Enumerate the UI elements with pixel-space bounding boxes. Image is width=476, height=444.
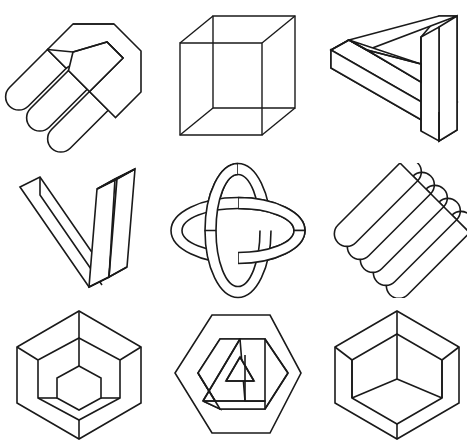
- figure-cell-impossible-v: Impossible V: [0, 155, 158, 305]
- figure-cell-impossible-trident: Impossible Trident (Blivet): [0, 0, 158, 155]
- figure-cell-nested-hexagon-cube: Nested Hexagonal Cube: [0, 305, 158, 444]
- impossible-trident-illustration: [4, 3, 154, 153]
- cube-edge-top-left: [180, 16, 213, 43]
- impossible-v-illustration: [14, 165, 144, 295]
- cube-front-face: [180, 43, 262, 135]
- impossible-rings-body: [171, 163, 305, 297]
- impossible-v-arms: [20, 169, 135, 287]
- necker-cube-edges: [180, 16, 295, 135]
- penrose-hexagon-illustration: [170, 309, 306, 441]
- figure-cell-necker-cube: Necker Cube: [158, 0, 318, 155]
- tribar-beam-right-front-face: [439, 16, 457, 141]
- penrose-triangle-illustration: [327, 8, 467, 148]
- reversible-cube-corner-illustration: [329, 308, 465, 442]
- trident-body: [6, 24, 141, 152]
- nested-hexagon-cube-illustration: [11, 308, 147, 442]
- cube-edge-bottom-right: [262, 108, 295, 135]
- penrose-triangle-beams: [331, 16, 457, 141]
- cube-edge-top-right: [262, 16, 295, 43]
- figure-cell-penrose-triangle: Penrose Triangle: [318, 0, 476, 155]
- nested-hexagon-body: [17, 311, 141, 439]
- necker-cube-illustration: [173, 8, 303, 148]
- impossible-cylinders-illustration: [327, 163, 467, 298]
- penrose-hexagon-body: [175, 315, 301, 433]
- impossible-rings-illustration: [168, 158, 308, 303]
- reversible-cube-body: [335, 311, 459, 439]
- figure-cell-penrose-hexagon: Impossible Hexagonal Ring: [158, 305, 318, 444]
- cube-back-face: [213, 16, 295, 108]
- impossible-figures-grid: Impossible Trident (Blivet): [0, 0, 476, 444]
- figure-cell-reversible-cube-corner: Reversible Cube Corner: [318, 305, 476, 444]
- figure-cell-impossible-cylinders: Impossible Cylinders: [318, 155, 476, 305]
- cube-edge-bottom-left: [180, 108, 213, 135]
- tribar-beam-right-side-face: [421, 27, 439, 141]
- figure-cell-impossible-rings: Impossible Interlocked Rings: [158, 155, 318, 305]
- cylinder-stack: [334, 163, 467, 298]
